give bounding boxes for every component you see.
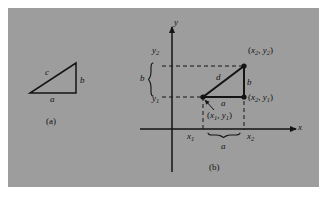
- label-a-hypotenuse-c: c: [45, 68, 49, 77]
- label-tick-y1: y1: [152, 94, 159, 103]
- panel-b-triangle: [200, 63, 246, 99]
- brace-horizontal-a: [208, 133, 240, 138]
- point-x2y1-marker: [241, 94, 246, 99]
- label-point-x2y2: (x2, y2): [248, 46, 273, 55]
- label-y-axis: y: [174, 18, 178, 27]
- label-brace-b: b: [140, 74, 145, 83]
- panel-a-triangle: [30, 63, 76, 93]
- point-x1y1-leader-arrow: [205, 100, 214, 110]
- label-point-x1y1: (x1, y1): [207, 111, 232, 120]
- caption-panel-b: (b): [209, 163, 220, 172]
- label-tick-y2: y2: [152, 46, 159, 55]
- label-a-side-a: a: [50, 95, 55, 104]
- figure-container: c b a (a) y x y2 y1 x1 x2 b a b a d (x2,…: [0, 0, 327, 197]
- label-leg-b: b: [247, 78, 252, 87]
- label-brace-a: a: [221, 142, 226, 151]
- label-hypotenuse-d: d: [216, 73, 221, 82]
- label-tick-x2: x2: [247, 132, 254, 141]
- label-point-x2y1: (x2, y1): [248, 93, 273, 102]
- label-leg-a: a: [221, 99, 226, 108]
- caption-panel-a: (a): [46, 117, 56, 126]
- label-a-side-b: b: [80, 76, 85, 85]
- distance-triangle-outline: [203, 66, 244, 97]
- triangle-a-outline: [30, 63, 76, 93]
- label-x-axis: x: [298, 123, 302, 132]
- point-x1y1-marker: [200, 94, 205, 99]
- label-tick-x1: x1: [187, 132, 194, 141]
- brace-vertical-b: [148, 63, 153, 96]
- point-x2y2-marker: [241, 63, 246, 68]
